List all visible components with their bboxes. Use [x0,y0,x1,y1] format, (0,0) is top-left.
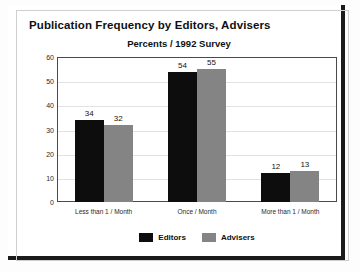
plot-area [57,57,337,202]
gridline [58,131,336,132]
legend-item-editors: Editors [139,233,186,242]
y-axis-tick-label: 50 [28,78,54,85]
chart-subtitle: Percents / 1992 Survey [29,38,329,49]
y-axis-tick-label: 10 [28,174,54,181]
y-axis-tick-label: 60 [28,54,54,61]
legend-label: Advisers [221,233,255,242]
legend-swatch-icon [202,233,216,242]
legend-swatch-icon [139,233,153,242]
gridline [58,155,336,156]
chart-page-card: Publication Frequency by Editors, Advise… [8,5,345,260]
y-axis-tick-label: 20 [28,150,54,157]
legend-label: Editors [158,233,186,242]
gridline [58,106,336,107]
y-axis-tick-label: 0 [28,199,54,206]
y-axis-tick-label: 40 [28,102,54,109]
legend-item-advisers: Advisers [202,233,255,242]
gridline [58,179,336,180]
chart-legend: EditorsAdvisers [57,233,337,242]
gridline [58,82,336,83]
y-axis-tick-label: 30 [28,126,54,133]
scanned-page-background: Publication Frequency by Editors, Advise… [0,0,360,272]
y-axis: 0102030405060 [26,57,54,202]
chart-title: Publication Frequency by Editors, Advise… [29,19,271,31]
x-axis-category-label: More than 1 / Month [230,208,350,215]
